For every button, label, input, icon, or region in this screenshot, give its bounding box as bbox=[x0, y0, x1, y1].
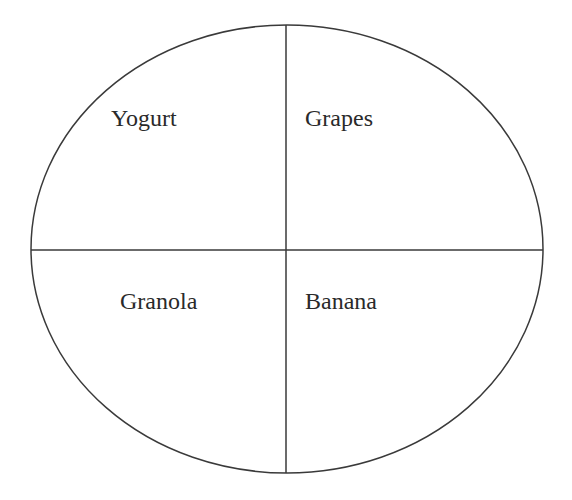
quadrant-label-banana: Banana bbox=[305, 289, 377, 313]
plate-diagram bbox=[0, 0, 572, 500]
quadrant-label-yogurt: Yogurt bbox=[111, 106, 177, 130]
plate-outline bbox=[31, 25, 543, 473]
quadrant-label-grapes: Grapes bbox=[305, 106, 373, 130]
quadrant-label-granola: Granola bbox=[120, 289, 197, 313]
